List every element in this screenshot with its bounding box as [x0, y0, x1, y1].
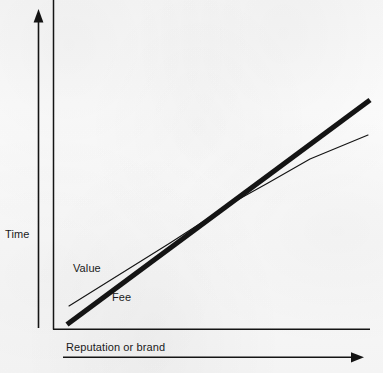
y-axis-label: Time — [5, 228, 29, 240]
right-arrow-icon — [351, 352, 364, 362]
x-axis-label: Reputation or brand — [66, 341, 165, 353]
chart-figure: Time Reputation or brand Value Fee — [0, 0, 383, 373]
chart-canvas — [0, 0, 383, 373]
series-line-value — [69, 135, 368, 306]
x-axis-arrow-group — [63, 352, 364, 362]
up-arrow-icon — [34, 9, 44, 23]
series-label-fee: Fee — [112, 291, 131, 303]
plot-frame — [53, 0, 370, 330]
series-label-value: Value — [73, 262, 101, 274]
y-axis-arrow-group — [34, 9, 44, 328]
